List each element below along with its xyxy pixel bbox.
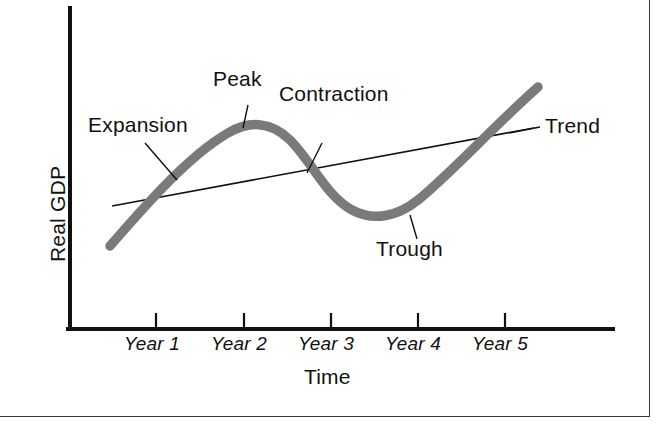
leader-line-trend [509, 127, 540, 133]
x-tick-label-year-2: Year 2 [211, 333, 267, 355]
trend-line [112, 128, 534, 206]
x-tick-label-year-3: Year 3 [298, 333, 354, 355]
leader-line-expansion [145, 143, 177, 180]
x-tick-label-year-5: Year 5 [472, 333, 528, 355]
x-tick-label-year-1: Year 1 [124, 333, 180, 355]
annotation-contraction: Contraction [279, 82, 389, 106]
annotation-expansion: Expansion [88, 113, 188, 137]
x-tick-label-year-4: Year 4 [385, 333, 441, 355]
x-axis-ticks [156, 313, 505, 329]
business-cycle-figure: Real GDP Time Year 1 Year 2 Year 3 Year … [0, 0, 667, 434]
annotation-leader-lines [145, 105, 540, 239]
leader-line-trough [410, 215, 417, 239]
y-axis-title: Real GDP [46, 166, 70, 262]
annotation-peak: Peak [213, 67, 262, 91]
x-axis-title: Time [304, 365, 351, 389]
annotation-trough: Trough [376, 237, 443, 261]
annotation-trend: Trend [545, 114, 600, 138]
